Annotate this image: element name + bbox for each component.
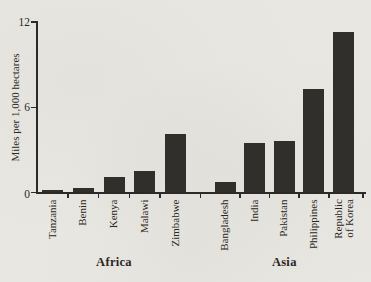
group-label-africa: Africa (96, 255, 132, 270)
y-tick-label-6: 6 (4, 100, 30, 114)
x-label-philippines: Philippines (307, 199, 320, 259)
bar-bangladesh (215, 182, 236, 193)
x-label-zimbabwe: Zimbabwe (169, 199, 182, 259)
bar-republic-of-korea (333, 32, 354, 193)
bar-malawi (134, 171, 155, 192)
x-tick-2 (129, 194, 131, 198)
x-label-pakistan: Pakistan (278, 199, 291, 259)
x-tick-6 (269, 194, 271, 198)
x-label-malawi: Malawi (138, 199, 151, 259)
scanned-bar-chart-figure: Miles per 1,000 hectares 0612 TanzaniaBe… (0, 0, 371, 282)
x-tick-7 (298, 194, 300, 198)
x-axis-line (36, 192, 366, 194)
x-tick-4 (200, 194, 202, 198)
x-tick-3 (159, 194, 161, 198)
bar-pakistan (274, 141, 295, 192)
x-label-benin: Benin (77, 199, 90, 259)
x-tick-9 (362, 194, 364, 198)
group-label-asia: Asia (272, 255, 297, 270)
bar-zimbabwe (165, 134, 186, 192)
bar-india (244, 143, 265, 193)
x-label-kenya: Kenya (108, 199, 121, 259)
y-tick-label-12: 12 (4, 15, 30, 29)
bar-philippines (303, 89, 324, 193)
x-tick-1 (98, 194, 100, 198)
bar-kenya (104, 177, 125, 193)
x-tick-8 (328, 194, 330, 198)
y-tick-label-0: 0 (4, 187, 30, 201)
x-tick-5 (239, 194, 241, 198)
y-axis-line (36, 21, 38, 192)
x-label-tanzania: Tanzania (46, 199, 59, 259)
x-label-republic-of-korea: Republic of Korea (333, 199, 355, 259)
x-tick-0 (67, 194, 69, 198)
x-label-bangladesh: Bangladesh (219, 199, 232, 259)
x-label-india: India (248, 199, 261, 259)
